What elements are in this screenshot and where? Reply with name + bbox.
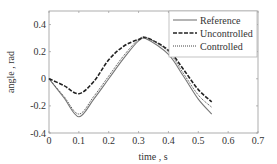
legend-label-reference: Reference <box>200 15 241 26</box>
x-axis-label: time , s <box>138 151 167 162</box>
y-tick-label: 0.2 <box>34 46 47 57</box>
legend: ReferenceUncontrolledControlled <box>169 11 257 57</box>
legend-label-uncontrolled: Uncontrolled <box>200 28 253 39</box>
legend-label-controlled: Controlled <box>200 41 243 52</box>
x-tick-label: 0.6 <box>222 135 235 146</box>
y-axis-label: angle , rad <box>5 51 16 93</box>
x-tick-label: 0.4 <box>162 135 175 146</box>
x-tick-label: 0 <box>47 135 52 146</box>
y-tick-label: 0 <box>41 73 46 84</box>
x-tick-label: 0.5 <box>192 135 205 146</box>
y-tick-label: -0.4 <box>30 128 46 139</box>
chart: 00.10.20.30.40.50.60.7 -0.4-0.200.20.4 t… <box>0 0 277 164</box>
x-tick-label: 0.2 <box>102 135 115 146</box>
y-tick-label: -0.2 <box>30 100 46 111</box>
y-tick-label: 0.4 <box>34 19 47 30</box>
x-tick-label: 0.3 <box>132 135 145 146</box>
x-tick-label: 0.7 <box>252 135 265 146</box>
x-tick-label: 0.1 <box>73 135 86 146</box>
